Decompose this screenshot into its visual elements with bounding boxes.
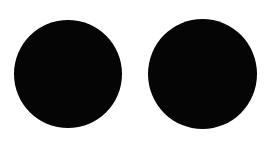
image-canvas: Two solid black circles A plain white fi…	[0, 0, 270, 145]
right-circle	[148, 19, 257, 129]
shape-layer	[0, 0, 270, 145]
left-circle	[14, 20, 122, 128]
